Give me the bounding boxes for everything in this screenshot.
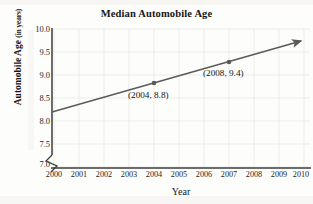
data-point-annotation: (2004, 8.8) <box>128 91 169 100</box>
data-point-annotation: (2008, 9.4) <box>203 69 244 78</box>
y-axis-break-icon <box>46 155 57 172</box>
plot-area <box>0 0 313 204</box>
data-point-marker <box>227 60 232 65</box>
chart-figure: Median Automobile Age Automobile Age (in… <box>0 0 313 204</box>
data-point-marker <box>152 81 157 86</box>
